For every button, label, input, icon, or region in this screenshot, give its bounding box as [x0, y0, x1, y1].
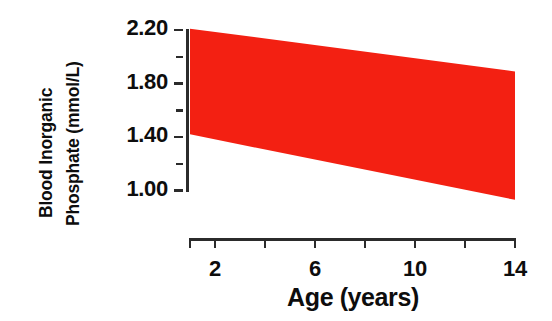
reference-band-polygon — [190, 29, 515, 200]
x-axis-tick — [414, 238, 417, 248]
y-axis-tick — [174, 189, 183, 192]
x-axis-tick — [464, 238, 467, 248]
y-axis-tick — [176, 163, 183, 166]
x-axis-tick — [314, 238, 317, 248]
x-axis-tick — [364, 238, 367, 248]
y-axis-tick — [174, 29, 183, 32]
y-axis-tick — [176, 56, 183, 59]
x-axis-tick — [189, 238, 192, 248]
x-axis-tick — [514, 238, 517, 248]
x-axis-tick-label: 6 — [309, 256, 321, 282]
plot-area — [188, 0, 528, 240]
x-axis-tick-label: 14 — [503, 256, 527, 282]
x-axis-title: Age (years) — [190, 283, 516, 312]
y-axis-tick — [174, 82, 183, 85]
reference-band-area — [188, 0, 528, 240]
x-axis-tick-marks — [0, 238, 552, 252]
y-axis-tick-marks — [0, 0, 186, 240]
x-axis-tick — [214, 238, 217, 248]
x-axis-tick — [264, 238, 267, 248]
x-axis-tick-labels: 261014 — [0, 256, 552, 286]
x-axis-tick-label: 2 — [209, 256, 221, 282]
y-axis-tick — [174, 136, 183, 139]
x-axis-tick-label: 10 — [403, 256, 427, 282]
chart-figure: Blood Inorganic Phosphate (mmol/L) 2.201… — [0, 0, 552, 321]
y-axis-tick — [176, 109, 183, 112]
